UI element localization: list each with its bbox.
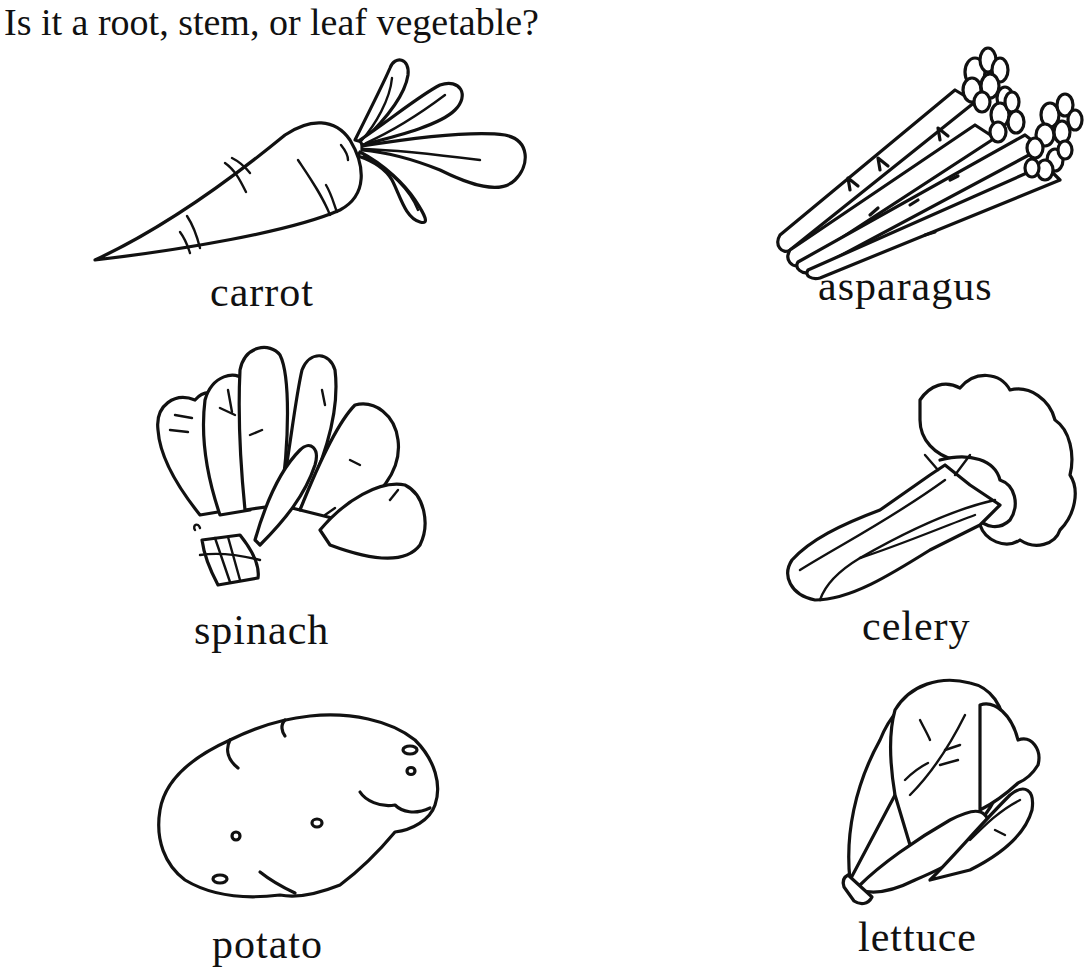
vegetable-asparagus: asparagus xyxy=(760,40,1092,320)
vegetable-celery: celery xyxy=(770,360,1092,660)
label-spinach: spinach xyxy=(194,606,329,654)
label-lettuce: lettuce xyxy=(858,913,977,961)
vegetable-carrot: carrot xyxy=(0,0,540,320)
label-carrot: carrot xyxy=(210,268,314,316)
vegetable-spinach: spinach xyxy=(140,330,440,660)
label-asparagus: asparagus xyxy=(818,262,993,310)
label-celery: celery xyxy=(862,602,971,650)
vegetable-potato: potato xyxy=(140,700,460,965)
vegetable-lettuce: lettuce xyxy=(820,665,1092,965)
label-potato: potato xyxy=(212,920,323,968)
